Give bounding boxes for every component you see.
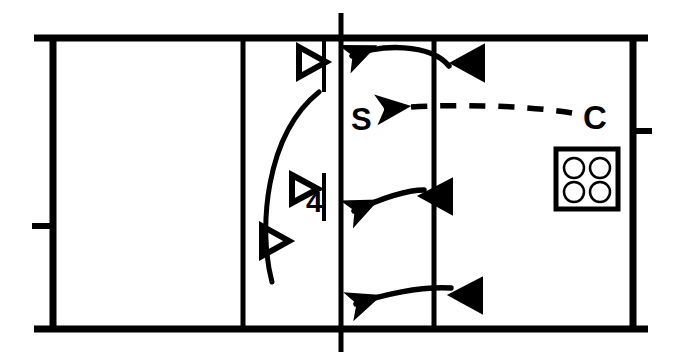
hollow-player-front-icon[interactable] <box>299 47 326 77</box>
court-svg: S C 4 <box>0 0 676 360</box>
setter-label: S <box>351 102 372 137</box>
arrow-back-attack <box>356 288 451 304</box>
ball-icon <box>564 158 584 178</box>
solid-player-back-icon[interactable] <box>449 278 482 313</box>
ball-icon <box>564 182 584 202</box>
arrow-coach-to-setter <box>384 106 572 113</box>
ball-cart[interactable] <box>556 149 618 209</box>
ball-cart-box <box>556 149 618 209</box>
volleyball-court-diagram: S C 4 <box>0 0 676 360</box>
solid-players <box>419 45 484 313</box>
ball-icon <box>590 182 610 202</box>
hollow-players <box>262 47 326 256</box>
coach-label: C <box>583 99 607 136</box>
player-number-label: 4 <box>306 185 323 218</box>
solid-player-front-icon[interactable] <box>451 45 484 81</box>
movement-arrows <box>266 48 572 304</box>
ball-icon <box>590 158 610 178</box>
arrow-middle-attack <box>354 190 424 211</box>
